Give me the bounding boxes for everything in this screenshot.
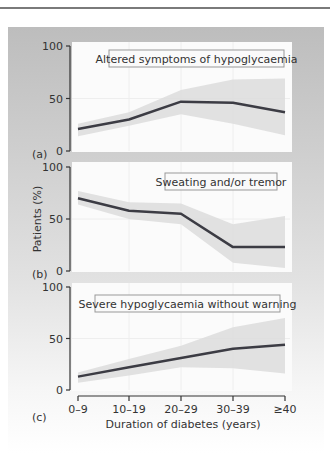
panel-title: Altered symptoms of hypoglycaemia xyxy=(95,53,297,66)
y-tick-label: 0 xyxy=(56,384,63,397)
y-tick-label: 50 xyxy=(49,93,63,106)
y-tick-label: 100 xyxy=(42,161,63,174)
y-tick-label: 100 xyxy=(42,281,63,294)
y-tick-label: 50 xyxy=(49,213,63,226)
y-tick-label: 0 xyxy=(56,265,63,278)
x-tick-label: 20–29 xyxy=(164,403,198,416)
panel-label-c: (c) xyxy=(32,411,47,424)
panel-label-a: (a) xyxy=(32,148,47,161)
panel-label-b: (b) xyxy=(32,268,48,281)
x-tick-label: 30–39 xyxy=(216,403,250,416)
panel-title: Severe hypoglycaemia without warning xyxy=(79,298,297,311)
panel-title: Sweating and/or tremor xyxy=(156,176,287,189)
chart: 050100Altered symptoms of hypoglycaemia0… xyxy=(0,0,330,453)
y-tick-label: 100 xyxy=(42,40,63,53)
x-tick-label: 10–19 xyxy=(112,403,146,416)
y-tick-label: 50 xyxy=(49,333,63,346)
y-axis-title: Patients (%) xyxy=(31,186,44,253)
x-tick-label: 0–9 xyxy=(68,403,88,416)
x-tick-label: ≥40 xyxy=(273,403,296,416)
x-axis-title: Duration of diabetes (years) xyxy=(105,418,260,431)
y-tick-label: 0 xyxy=(56,145,63,158)
